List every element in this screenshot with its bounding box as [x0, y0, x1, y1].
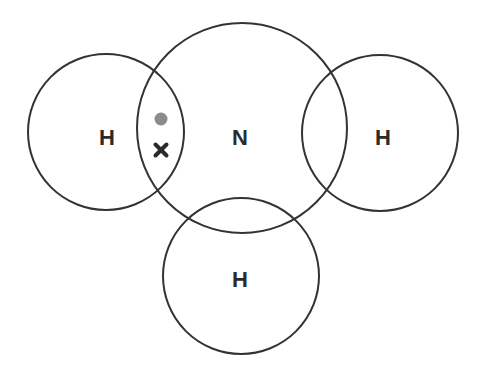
h-bottom-label: H [232, 267, 248, 292]
shared-electron-pair [155, 113, 168, 156]
atom-n-center: N [137, 23, 347, 233]
ammonia-dot-cross-diagram: H N H H [0, 0, 477, 377]
atom-h-bottom: H [163, 198, 319, 354]
h-left-label: H [99, 125, 115, 150]
cross-electron-icon [156, 145, 167, 156]
n-center-label: N [232, 125, 248, 150]
atom-h-left: H [28, 54, 184, 210]
dot-electron-icon [155, 113, 168, 126]
h-right-label: H [375, 125, 391, 150]
atom-h-right: H [302, 55, 458, 211]
